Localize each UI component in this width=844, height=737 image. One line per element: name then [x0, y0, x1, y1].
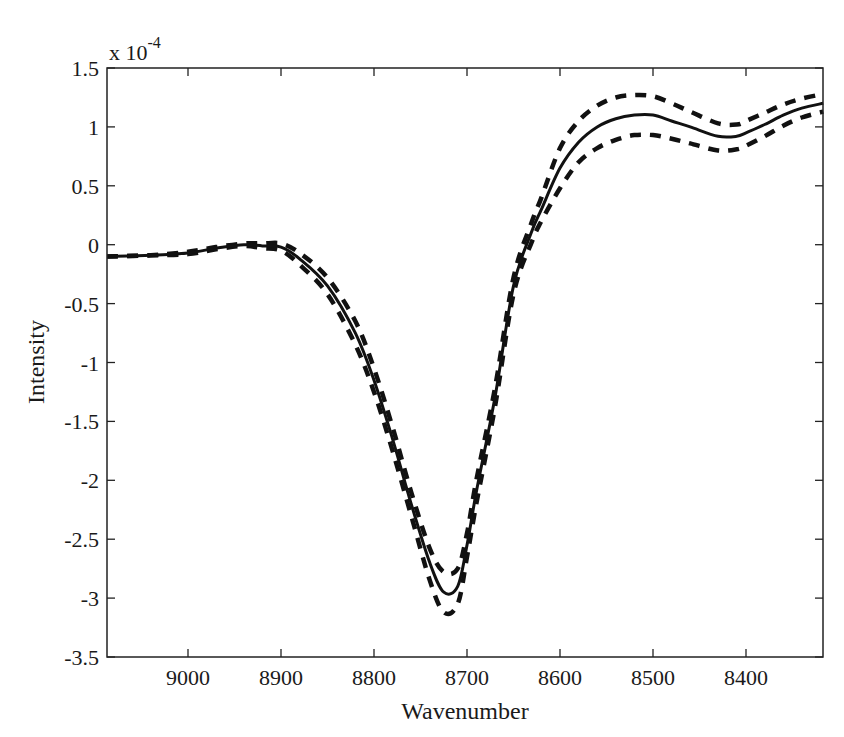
x-tick-label: 8600 — [538, 665, 582, 690]
y-tick-label: 0.5 — [72, 174, 100, 199]
x-axis-title: Wavenumber — [401, 698, 528, 724]
y-tick-label: 1 — [88, 115, 99, 140]
y-axis-title: Intensity — [23, 320, 49, 404]
y-tick-label: -1.5 — [64, 409, 99, 434]
chart: 9000890088008700860085008400 1.510.50-0.… — [0, 0, 844, 737]
x-tick-label: 8900 — [259, 665, 303, 690]
y-tick-label: 0 — [88, 233, 99, 258]
y-tick-label: -2 — [81, 468, 99, 493]
x-tick-label: 8500 — [631, 665, 675, 690]
y-tick-label: -0.5 — [64, 292, 99, 317]
y-tick-label: -3 — [81, 586, 99, 611]
y-tick-label: -1 — [81, 351, 99, 376]
y-tick-label: -3.5 — [64, 645, 99, 670]
x-tick-label: 9000 — [166, 665, 210, 690]
x-tick-label: 8400 — [724, 665, 768, 690]
y-tick-label: 1.5 — [72, 56, 100, 81]
x-tick-label: 8800 — [352, 665, 396, 690]
chart-background — [0, 0, 844, 737]
x-tick-label: 8700 — [445, 665, 489, 690]
y-tick-label: -2.5 — [64, 527, 99, 552]
